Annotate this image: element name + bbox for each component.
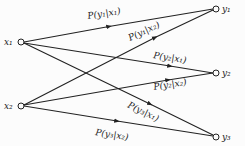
node-label-y2: y₂ xyxy=(221,68,231,78)
node-x2 xyxy=(18,103,24,109)
node-label-y1: y₁ xyxy=(221,4,231,14)
channel-diagram: x₁ x₂ y₁ y₂ y₃ P(y₁|x₁) P(y₁|x₂) P(y₂|x₁… xyxy=(0,0,245,146)
node-y3 xyxy=(213,134,219,140)
edge-label-y2-x2: P(y₂|x₂) xyxy=(152,77,188,93)
node-y2 xyxy=(213,70,219,76)
node-label-y3: y₃ xyxy=(221,132,231,142)
node-label-x2: x₂ xyxy=(4,101,13,111)
node-x1 xyxy=(18,39,24,45)
edge-label-y3-x2: P(y₃|x₂) xyxy=(94,127,130,143)
node-y1 xyxy=(213,6,219,12)
edge-label-y3-x1: P(y₃|x₁) xyxy=(125,99,161,124)
edge-label-y1-x1: P(y₁|x₁) xyxy=(86,6,122,22)
node-label-x1: x₁ xyxy=(4,37,13,47)
